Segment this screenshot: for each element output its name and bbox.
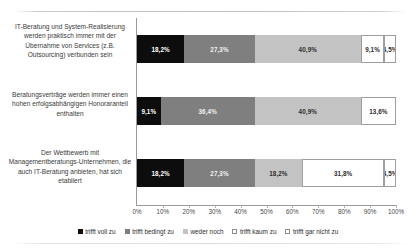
bar-segment: 9,1%	[137, 97, 161, 125]
bar-segment: 18,2%	[137, 35, 184, 63]
bar-row: 18,2%27,3%18,2%31,8%4,5%	[137, 159, 396, 187]
bar-segment: 9,1%	[361, 35, 385, 63]
legend-item[interactable]: trifft kaum zu	[232, 228, 276, 235]
bar-segment: 18,2%	[255, 159, 302, 187]
bar-segment: 36,4%	[161, 97, 255, 125]
bar-segment-value-label: 9,1%	[365, 46, 380, 53]
bar-segment-value-label: 27,3%	[210, 46, 228, 53]
bar-segment: 27,3%	[184, 159, 255, 187]
value-axis-tick-labels: 0%10%20%30%40%50%60%70%80%90%100%	[136, 208, 396, 220]
bar-segment-value-label: 9,1%	[141, 108, 156, 115]
top-divider-rule	[14, 11, 406, 12]
bar-segment-value-label: 31,8%	[334, 170, 352, 177]
bar-segment: 27,3%	[184, 35, 255, 63]
bar-segment-value-label: 18,2%	[269, 170, 287, 177]
bar-segment: 18,2%	[137, 159, 184, 187]
legend-swatch-icon	[232, 229, 237, 234]
legend-swatch-icon	[125, 229, 130, 234]
bar-segment-value-label: 27,3%	[210, 170, 228, 177]
stacked-bar-chart-figure: IT-Beratung und System-Realisierung werd…	[0, 0, 416, 251]
legend-item-label: trifft kaum zu	[240, 228, 276, 235]
category-label-2: Der Wettbewerb mit Managementberatungs-U…	[8, 148, 132, 185]
legend-item-label: trifft voll zu	[85, 228, 115, 235]
bar-segment: 31,8%	[302, 159, 384, 187]
bar-segment-value-label: 4,5%	[384, 46, 396, 53]
bar-segment-value-label: 40,9%	[299, 108, 317, 115]
legend-item[interactable]: trifft bedingt zu	[125, 228, 174, 235]
legend-item-label: weder noch	[190, 228, 223, 235]
legend-item-label: trifft bedingt zu	[132, 228, 174, 235]
legend-item[interactable]: weder noch	[183, 228, 224, 235]
chart-legend: trifft voll zutrifft bedingt zuweder noc…	[0, 228, 416, 235]
category-label-0: IT-Beratung und System-Realisierung werd…	[8, 22, 132, 59]
value-axis-tick-label: 100%	[381, 208, 411, 215]
legend-item[interactable]: trifft gar nicht zu	[285, 228, 338, 235]
bar-segment-value-label: 18,2%	[151, 170, 169, 177]
bottom-divider-rule	[10, 243, 408, 244]
legend-item[interactable]: trifft voll zu	[78, 228, 116, 235]
bar-row: 9,1%36,4%40,9%13,6%	[137, 97, 396, 125]
category-axis-labels: IT-Beratung und System-Realisierung werd…	[8, 18, 132, 205]
plot-area: 18,2%27,3%40,9%9,1%4,5%9,1%36,4%40,9%13,…	[136, 18, 396, 205]
bar-segment: 40,9%	[255, 35, 361, 63]
legend-swatch-icon	[285, 229, 290, 234]
bar-segment: 13,6%	[361, 97, 396, 125]
legend-swatch-icon	[78, 229, 83, 234]
bar-segment-value-label: 13,6%	[369, 108, 387, 115]
bar-segment: 4,5%	[384, 159, 396, 187]
bar-segment-value-label: 36,4%	[199, 108, 217, 115]
bar-segment-value-label: 18,2%	[151, 46, 169, 53]
bar-segment: 40,9%	[255, 97, 361, 125]
bar-segment-value-label: 4,5%	[384, 170, 396, 177]
bar-segment-value-label: 40,9%	[299, 46, 317, 53]
legend-item-label: trifft gar nicht zu	[293, 228, 338, 235]
bar-row: 18,2%27,3%40,9%9,1%4,5%	[137, 35, 396, 63]
category-label-1: Beratungsverträge werden immer einen hoh…	[8, 90, 132, 118]
bar-segment: 4,5%	[384, 35, 396, 63]
legend-swatch-icon	[183, 229, 188, 234]
